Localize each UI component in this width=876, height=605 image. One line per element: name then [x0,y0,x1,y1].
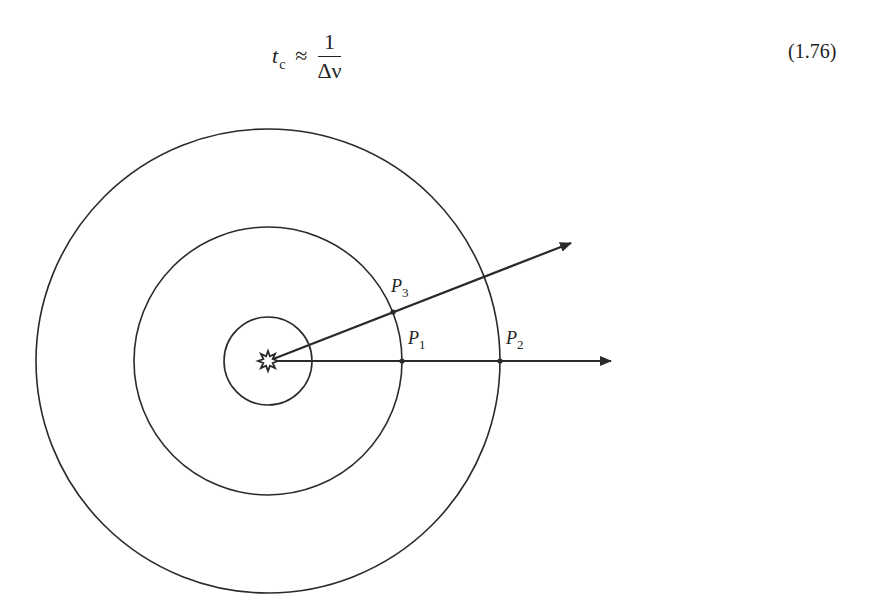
star-burst-icon [258,351,278,371]
point-p2-label: P2 [505,328,524,352]
star-burst-source-icon [258,351,278,371]
point-p3-dot [390,309,395,314]
rays [268,243,611,361]
point-p1-label: P1 [407,328,426,352]
concentric-wavefront-diagram: P1P2P3 [0,0,876,605]
points: P1P2P3 [390,276,524,364]
point-p1-dot [399,358,404,363]
point-p3-label: P3 [390,276,409,300]
point-p2-dot [497,358,502,363]
